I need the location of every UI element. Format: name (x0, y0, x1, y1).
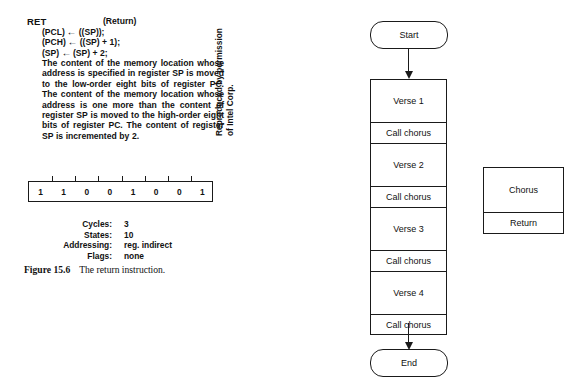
flowchart-call-chorus-box: Call chorus (370, 186, 447, 207)
timing-label: Addressing: (38, 240, 124, 251)
opcode-bit: 1 (122, 182, 145, 201)
timing-row: Cycles: 3 (38, 219, 213, 230)
instruction-spec-panel: RET (Return) (PCL) ← ((SP)); (PCH) ← ((S… (0, 0, 250, 368)
timing-label: Cycles: (38, 219, 124, 230)
timing-row: Addressing: reg. indirect (38, 240, 213, 251)
opcode-bit-tick (75, 176, 76, 182)
micro-op-right: ((SP)); (79, 27, 105, 37)
flowchart-verse-box: Verse 1 (370, 79, 447, 122)
micro-operation-row: (SP) ← (SP) + 2; (42, 48, 232, 58)
opcode-bit-tick (191, 176, 192, 182)
flowchart-start-terminator: Start (370, 21, 448, 49)
flowchart-verse-box: Verse 2 (370, 143, 447, 186)
flowchart-call-chorus-box: Call chorus (370, 250, 447, 271)
credit-line-2: of Intel Corp. (225, 0, 236, 136)
instruction-timing-table: Cycles: 3 States: 10 Addressing: reg. in… (38, 219, 213, 261)
timing-value: 10 (124, 230, 133, 241)
opcode-bit-tick (98, 176, 99, 182)
micro-op-left: (PCL) (42, 27, 65, 37)
flowchart-diagram: Start Verse 1Call chorusVerse 2Call chor… (300, 0, 581, 368)
instruction-description: The content of the memory location whose… (42, 58, 224, 141)
opcode-bit: 1 (29, 182, 52, 201)
flowchart-call-chorus-box: Call chorus (370, 122, 447, 143)
timing-row: States: 10 (38, 230, 213, 241)
reproduction-credit: Reproduced by permission of Intel Corp. (214, 0, 240, 136)
opcode-bit-tick (122, 176, 123, 182)
micro-op-left: (SP) (42, 48, 59, 58)
instruction-long-name: (Return) (103, 16, 136, 26)
figure-caption: Figure 15.6The return instruction. (24, 264, 165, 275)
micro-operations-list: (PCL) ← ((SP)); (PCH) ← ((SP) + 1); (SP)… (42, 27, 232, 58)
micro-op-left: (PCH) (42, 37, 66, 47)
flowchart-verse-box: Verse 4 (370, 271, 447, 314)
opcode-bit-tick (145, 176, 146, 182)
micro-op-right: (SP) + 2; (73, 48, 108, 58)
opcode-bit: 1 (52, 182, 75, 201)
opcode-bit: 0 (168, 182, 191, 201)
flow-arrowhead-icon (405, 71, 413, 79)
timing-value: none (124, 251, 144, 262)
flowchart-subroutine-return: Return (483, 212, 564, 234)
opcode-bit: 0 (98, 182, 121, 201)
flowchart-verse-box: Verse 3 (370, 207, 447, 250)
timing-label: States: (38, 230, 124, 241)
micro-operation-row: (PCH) ← ((SP) + 1); (42, 37, 232, 47)
timing-label: Flags: (38, 251, 124, 262)
flowchart-end-terminator: End (370, 349, 448, 377)
flowchart-subroutine-body: Chorus (483, 167, 564, 212)
left-arrow-icon: ← (68, 37, 78, 47)
opcode-bit: 0 (75, 182, 98, 201)
opcode-bit: 0 (145, 182, 168, 201)
opcode-bit-tick (52, 176, 53, 182)
flow-connector-start-to-verse1 (408, 49, 409, 72)
timing-value: reg. indirect (124, 240, 172, 251)
credit-line-1: Reproduced by permission (214, 0, 225, 136)
opcode-bit-pattern: 11001001 (28, 181, 213, 202)
opcode-bit-tick (168, 176, 169, 182)
timing-value: 3 (124, 219, 129, 230)
micro-operation-row: (PCL) ← ((SP)); (42, 27, 232, 37)
opcode-bit: 1 (191, 182, 214, 201)
figure-caption-text: The return instruction. (79, 264, 165, 275)
figure-number: Figure 15.6 (24, 264, 70, 275)
timing-row: Flags: none (38, 251, 213, 262)
left-arrow-icon: ← (61, 48, 71, 58)
left-arrow-icon: ← (67, 27, 77, 37)
micro-op-right: ((SP) + 1); (80, 37, 120, 47)
instruction-mnemonic: RET (27, 16, 47, 27)
